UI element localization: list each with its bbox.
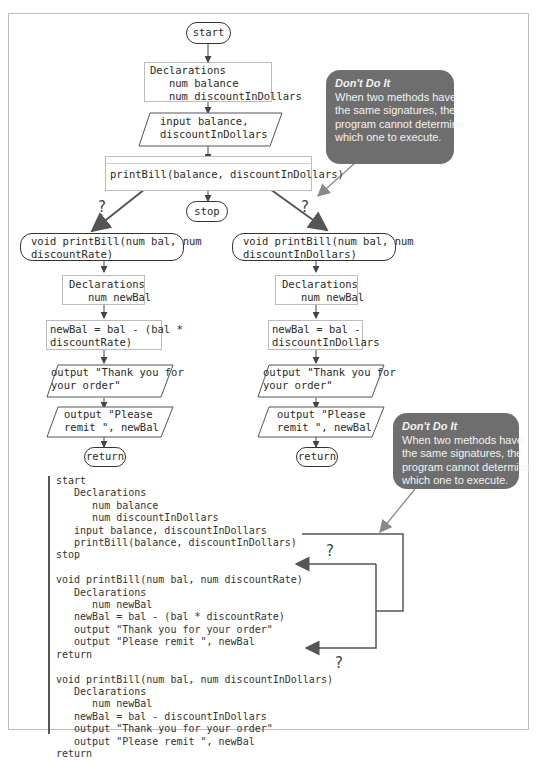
left-return-terminal: return bbox=[84, 447, 126, 467]
callout-body: When two methods have the same signature… bbox=[335, 91, 445, 145]
right-calc-box: newBal = bal - discountInDollars bbox=[268, 320, 363, 350]
pseudocode-bar bbox=[48, 476, 50, 734]
left-output1-text: output "Thank you for your order" bbox=[51, 366, 184, 392]
start-terminal: start bbox=[186, 22, 231, 44]
dont-do-it-callout-top: Don't Do It When two methods have the sa… bbox=[326, 70, 454, 164]
question-mark-code-top: ? bbox=[326, 542, 334, 560]
call-printbill-text: printBill(balance, discountInDollars) bbox=[110, 168, 344, 181]
main-declarations-box: Declarations num balance num discountInD… bbox=[144, 62, 272, 102]
call-box-divider bbox=[105, 163, 312, 164]
pseudocode-listing: start Declarations num balance num disco… bbox=[56, 475, 333, 760]
callout-title: Don't Do It bbox=[402, 420, 510, 434]
right-output2-text: output "Please remit ", newBal bbox=[277, 408, 372, 434]
left-output2-text: output "Please remit ", newBal bbox=[64, 408, 159, 434]
question-mark-right: ? bbox=[301, 198, 309, 216]
callout-title: Don't Do It bbox=[335, 77, 445, 91]
input-text: input balance, discountInDollars bbox=[160, 115, 267, 141]
right-declarations-box: Declarations num newBal bbox=[275, 275, 358, 305]
left-method-header: void printBill(num bal, num discountRate… bbox=[20, 233, 184, 261]
callout-body: When two methods have the same signature… bbox=[402, 434, 510, 488]
question-mark-left: ? bbox=[98, 198, 106, 216]
right-return-terminal: return bbox=[296, 447, 338, 467]
left-declarations-box: Declarations num newBal bbox=[62, 275, 145, 305]
dont-do-it-callout-bottom: Don't Do It When two methods have the sa… bbox=[393, 413, 519, 489]
left-calc-box: newBal = bal - (bal * discountRate) bbox=[46, 320, 162, 350]
stop-terminal: stop bbox=[186, 201, 228, 222]
right-method-header: void printBill(num bal, num discountInDo… bbox=[232, 233, 396, 261]
question-mark-code-bottom: ? bbox=[335, 654, 343, 672]
right-output1-text: output "Thank you for your order" bbox=[263, 366, 396, 392]
